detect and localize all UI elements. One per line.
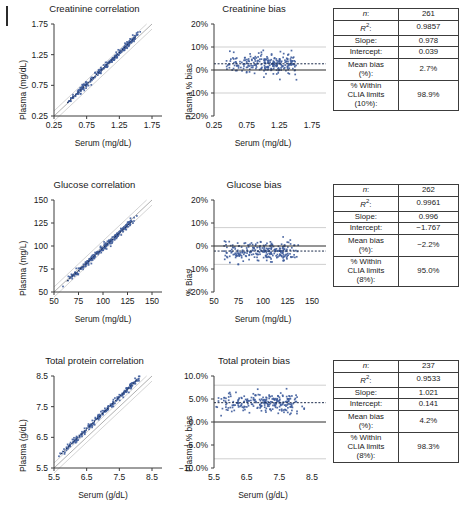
stat-label: Mean bias(%): [334,235,399,257]
svg-text:1.75: 1.75 [31,19,48,29]
svg-text:100: 100 [34,241,48,251]
x-axis-label: Serum (g/dL) [204,490,322,500]
svg-text:1.75: 1.75 [144,120,161,130]
table-row: Intercept:0.039 [334,47,459,59]
svg-text:50: 50 [209,296,219,306]
svg-text:8.5: 8.5 [36,371,48,381]
stat-value: 0.141 [398,399,458,411]
table-row: n:262 [334,185,459,197]
x-axis-label: Serum (mg/dL) [44,314,162,324]
correlation-chart: Total protein correlation5.56.57.58.58.5… [8,354,163,516]
svg-text:0.75: 0.75 [78,120,95,130]
stat-value: 0.978 [398,35,458,47]
y-axis-label: Plasma % bias [184,64,194,120]
svg-text:0%: 0% [196,241,209,251]
svg-text:20%: 20% [191,195,208,205]
svg-text:75: 75 [234,296,244,306]
plot-area: 0.250.751.251.7520%10%0%−10%−20%Plasma %… [168,16,328,164]
stat-value: 0.996 [398,211,458,223]
table-row: n:261 [334,9,459,21]
plot-area: 50751001251501501251007550Plasma (mg/L)S… [8,192,163,340]
stat-value: −2.2% [398,235,458,257]
svg-text:7.5: 7.5 [36,402,48,412]
stats-table: n:237R2:0.9533Slope:1.021Intercept:0.141… [333,360,459,463]
svg-text:10.0%: 10.0% [184,371,209,381]
svg-text:5.5: 5.5 [48,472,60,482]
stat-label: Intercept: [334,223,399,235]
svg-text:100: 100 [96,296,110,306]
stat-label: n: [334,185,399,197]
svg-text:1.25: 1.25 [111,120,128,130]
svg-text:6.5: 6.5 [81,472,93,482]
svg-text:20%: 20% [191,19,208,29]
stat-value: 0.9961 [398,196,458,211]
svg-text:7.5: 7.5 [273,472,285,482]
stat-value: 0.9857 [398,20,458,35]
svg-text:1.25: 1.25 [31,50,48,60]
stat-value: 0.9533 [398,372,458,387]
svg-text:6.5: 6.5 [241,472,253,482]
svg-text:75: 75 [39,264,49,274]
bias-chart: Creatinine bias0.250.751.251.7520%10%0%−… [168,2,328,164]
y-axis-label: Plasma % bias [184,416,194,472]
stats-table: n:261R2:0.9857Slope:0.978Intercept:0.039… [333,8,459,111]
stat-label: n: [334,361,399,373]
svg-text:7.5: 7.5 [113,472,125,482]
x-axis-label: Serum (g/dL) [44,490,162,500]
chart-title: Total protein bias [168,354,328,368]
stat-label: Mean bias(%): [334,411,399,433]
stat-value: 262 [398,185,458,197]
table-row: % WithinCLIA limits(8%):98.3% [334,433,459,463]
chart-title: Creatinine bias [168,2,328,16]
stat-label: R2: [334,20,399,35]
stat-value: 98.3% [398,433,458,463]
stat-value: 237 [398,361,458,373]
svg-text:0.25: 0.25 [31,111,48,121]
svg-text:6.5: 6.5 [36,432,48,442]
table-row: % WithinCLIA limits(8%):95.0% [334,257,459,287]
chart-title: Glucose bias [168,178,328,192]
stat-label: % WithinCLIA limits(8%): [334,433,399,463]
stat-value: 261 [398,9,458,21]
svg-text:125: 125 [120,296,134,306]
stat-label: R2: [334,196,399,211]
x-axis-label: Serum (mg/dL) [204,314,322,324]
stat-label: % WithinCLIA limits(10%): [334,81,399,111]
plot-area: 507510012515020%10%0%−10%−20%% BiasSerum… [168,192,328,340]
table-row: Intercept:−1.767 [334,223,459,235]
table-row: R2:0.9961 [334,196,459,211]
x-axis-label: Serum (mg/dL) [204,138,322,148]
x-axis-label: Serum (mg/dL) [44,138,162,148]
bias-chart: Total protein bias5.56.57.58.510.0%5.0%0… [168,354,328,516]
stats-table: n:262R2:0.9961Slope:0.996Intercept:−1.76… [333,184,459,287]
bias-chart: Glucose bias507510012515020%10%0%−10%−20… [168,178,328,340]
svg-text:150: 150 [145,296,159,306]
svg-text:8.5: 8.5 [146,472,158,482]
table-row: Slope:1.021 [334,387,459,399]
table-row: % WithinCLIA limits(10%):98.9% [334,81,459,111]
correlation-chart: Glucose correlation507510012515015012510… [8,178,163,340]
chart-title: Total protein correlation [8,354,163,368]
table-row: Mean bias(%):2.7% [334,59,459,81]
svg-text:5.5: 5.5 [36,463,48,473]
table-row: R2:0.9533 [334,372,459,387]
svg-text:10%: 10% [191,218,208,228]
svg-text:0.75: 0.75 [238,120,255,130]
svg-text:100: 100 [256,296,270,306]
svg-text:50: 50 [49,296,59,306]
chart-title: Creatinine correlation [8,2,163,16]
stat-value: 1.021 [398,387,458,399]
chart-title: Glucose correlation [8,178,163,192]
stat-label: Slope: [334,211,399,223]
stat-value: 4.2% [398,411,458,433]
stat-value: 98.9% [398,81,458,111]
stat-label: Mean bias(%): [334,59,399,81]
analyte-row-glucose: Glucose correlation507510012515015012510… [0,178,466,351]
stat-label: n: [334,9,399,21]
analyte-row-creatinine: Creatinine correlation0.250.751.251.751.… [0,2,466,175]
stat-label: % WithinCLIA limits(8%): [334,257,399,287]
stat-label: Intercept: [334,399,399,411]
svg-text:5.5: 5.5 [208,472,220,482]
table-row: Mean bias(%):4.2% [334,411,459,433]
svg-text:1.25: 1.25 [271,120,288,130]
